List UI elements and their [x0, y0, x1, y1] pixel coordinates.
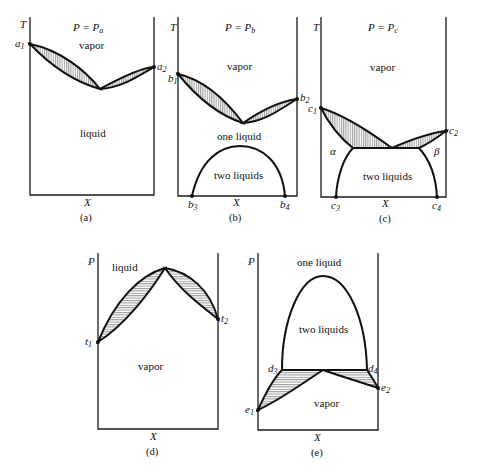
- label-e2: e2: [381, 381, 390, 395]
- label-t2: t2: [221, 312, 228, 326]
- panel-a-vapor-label: vapor: [79, 39, 104, 51]
- panel-b-one-liquid-label: one liquid: [217, 130, 262, 142]
- panel-e-one-liquid-label: one liquid: [297, 256, 342, 268]
- panel-d-liquid-label: liquid: [112, 261, 138, 273]
- panel-b-x-label: X: [232, 196, 241, 208]
- panel-a-condition: P = Pa: [72, 21, 103, 35]
- panel-c-two-liquids-label: two liquids: [363, 170, 412, 182]
- panel-b-caption: (b): [229, 212, 242, 224]
- panel-e: P one liquid two liquids vapor d3 d4 e1 …: [245, 253, 390, 459]
- panel-c-vapor-label: vapor: [370, 61, 395, 73]
- panel-b: T P = Pb vapor one liquid two liquids b1…: [168, 17, 310, 224]
- panel-b-left-lens: [178, 74, 243, 123]
- panel-d-x-label: X: [149, 430, 158, 442]
- panel-b-y-label: T: [170, 21, 177, 33]
- panel-a-liquid-label: liquid: [80, 127, 106, 139]
- label-b3: b3: [188, 198, 198, 212]
- panel-a-right-lens: [100, 67, 154, 89]
- label-c1: c1: [308, 102, 317, 116]
- point-t1: [96, 340, 100, 344]
- panel-d-vapor-label: vapor: [138, 360, 163, 372]
- panel-d-caption: (d): [146, 446, 159, 458]
- panel-b-right-lens: [243, 99, 297, 123]
- panel-c-alpha-label: α: [330, 145, 336, 157]
- point-a2: [152, 65, 156, 69]
- label-b4: b4: [280, 198, 290, 212]
- panel-b-two-liquids-label: two liquids: [214, 169, 263, 181]
- label-d3: d3: [268, 362, 278, 376]
- point-b1: [176, 72, 180, 76]
- panel-a-y-label: T: [20, 18, 27, 30]
- panel-c: T P = Pc vapor α β two liquids c1 c2 c3 …: [308, 17, 458, 225]
- panel-b-condition: P = Pb: [224, 21, 255, 35]
- panel-e-two-liquids-label: two liquids: [299, 323, 348, 335]
- panel-e-x-label: X: [313, 431, 322, 443]
- panel-c-beta-label: β: [433, 145, 440, 157]
- label-e1: e1: [245, 403, 254, 417]
- panel-e-caption: (e): [311, 447, 323, 459]
- panel-c-condition: P = Pc: [367, 21, 398, 35]
- label-a2: a2: [157, 60, 167, 74]
- panel-a-x-label: X: [83, 196, 92, 208]
- point-b2: [295, 97, 299, 101]
- panel-c-left-lens: [321, 108, 392, 148]
- label-c3: c3: [331, 199, 340, 213]
- panel-c-x-label: X: [381, 197, 390, 209]
- panel-a: T P = Pa vapor liquid a1 a2 X (a): [15, 17, 167, 224]
- panel-d-left-lens: [98, 268, 165, 342]
- phase-diagram-figure: T P = Pa vapor liquid a1 a2 X (a) T P = …: [0, 0, 477, 473]
- panel-d-right-lens: [165, 268, 218, 319]
- label-c4: c4: [432, 199, 441, 213]
- point-e1: [256, 408, 260, 412]
- panel-c-alpha-solvus: [336, 148, 353, 197]
- label-a1: a1: [15, 37, 25, 51]
- label-t1: t1: [85, 335, 92, 349]
- panel-d: P liquid vapor t1 t2 X (d): [85, 253, 228, 458]
- panel-b-vapor-label: vapor: [227, 60, 252, 72]
- panel-d-y-label: P: [87, 255, 95, 267]
- panel-e-y-label: P: [247, 255, 255, 267]
- point-c2: [444, 129, 448, 133]
- panel-c-y-label: T: [313, 21, 320, 33]
- point-c1: [319, 106, 323, 110]
- point-t2: [216, 317, 220, 321]
- point-e2: [376, 386, 380, 390]
- panel-a-caption: (a): [80, 212, 92, 224]
- panel-c-caption: (c): [379, 213, 391, 225]
- label-d4: d4: [368, 362, 378, 376]
- label-c2: c2: [449, 124, 458, 138]
- point-a1: [28, 42, 32, 46]
- panel-e-vapor-label: vapor: [314, 397, 339, 409]
